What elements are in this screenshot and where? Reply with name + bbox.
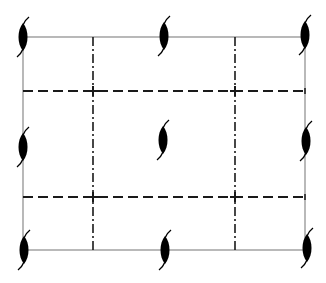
lens-icon (301, 21, 310, 49)
tail-top (163, 120, 169, 128)
twofold-axis-symbols (17, 15, 313, 270)
tail-bottom (17, 49, 23, 57)
lens-icon (161, 236, 170, 264)
lens-icon (19, 23, 28, 51)
twofold-axis-icon-top-middle (158, 16, 170, 56)
twofold-axis-icon-bottom-middle (159, 230, 171, 270)
symmetry-diagram (0, 0, 326, 283)
tail-bottom (301, 260, 307, 268)
lens-icon (302, 127, 311, 155)
tail-top (307, 228, 313, 236)
tail-bottom (17, 159, 23, 167)
twofold-axis-icon-top-right (299, 15, 311, 55)
tail-top (23, 17, 29, 25)
tail-top (164, 16, 170, 24)
twofold-axis-icon-center (157, 120, 169, 160)
tail-top (23, 127, 29, 135)
tail-top (306, 121, 312, 129)
tail-bottom (299, 47, 305, 55)
tail-bottom (159, 262, 165, 270)
twofold-axis-icon-top-left (17, 17, 29, 57)
twofold-axis-icon-bottom-left (18, 230, 30, 270)
lens-icon (19, 133, 28, 161)
twofold-axis-icon-middle-left (17, 127, 29, 167)
diagram-canvas (0, 0, 326, 283)
lens-icon (160, 22, 169, 50)
tail-top (305, 15, 311, 23)
tail-top (165, 230, 171, 238)
tail-bottom (158, 48, 164, 56)
twofold-axis-icon-middle-right (300, 121, 312, 161)
tail-bottom (157, 152, 163, 160)
tail-top (24, 230, 30, 238)
lens-icon (303, 234, 312, 262)
lens-icon (20, 236, 29, 264)
twofold-axis-icon-bottom-right (301, 228, 313, 268)
lens-icon (159, 126, 168, 154)
tail-bottom (18, 262, 24, 270)
